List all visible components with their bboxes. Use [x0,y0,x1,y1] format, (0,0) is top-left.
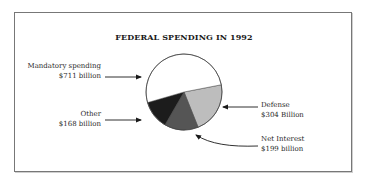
interest-value: $199 billion [261,145,304,155]
other-value: $168 billion [59,120,101,130]
interest-arrow-icon [196,135,258,146]
mandatory-name: Mandatory spending [28,62,102,72]
mandatory-value: $711 billion [28,72,102,82]
defense-name: Defense [261,101,304,111]
other-name: Other [59,110,101,120]
defense-label: Defense $304 Billion [261,101,304,120]
interest-label: Net Interest $199 billion [261,135,304,154]
interest-name: Net Interest [261,135,304,145]
mandatory-label: Mandatory spending $711 billion [28,62,102,81]
pie-chart [0,0,368,186]
defense-value: $304 Billion [261,111,304,121]
other-label: Other $168 billion [59,110,101,129]
